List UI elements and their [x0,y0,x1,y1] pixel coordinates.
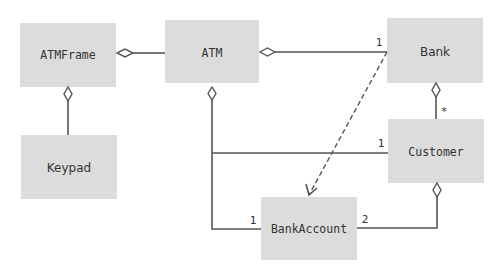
edge-atmframe-atm [117,49,165,57]
multiplicity-customer-bankaccount: 2 [362,213,369,226]
class-bankaccount: BankAccount [261,197,357,260]
multiplicity-bank-customer: * [441,105,448,118]
class-keypad: Keypad [21,135,117,199]
edge-customer-bankaccount-line [357,197,437,228]
edge-atmframe-keypad [64,87,72,135]
class-atm-label: ATM [202,46,223,60]
aggregation-diamond-icon [64,87,72,101]
class-customer: Customer [388,119,484,183]
class-atmframe-label: ATMFrame [40,48,95,62]
edge-atm-bank: 1 [260,36,387,56]
edge-atm-bankaccount-line [212,100,261,229]
aggregation-diamond-icon [117,49,133,57]
class-bank-label: Bank [420,45,450,59]
class-atm: ATM [165,20,259,83]
edge-bank-customer: * [432,83,447,119]
class-customer-label: Customer [408,145,463,159]
class-keypad-label: Keypad [47,161,91,175]
aggregation-diamond-icon [433,183,441,197]
class-atmframe: ATMFrame [20,23,116,87]
edge-customer-bankaccount: 2 [357,183,441,228]
edge-bank-bankaccount-dependency [306,52,387,195]
class-bankaccount-label: BankAccount [271,222,347,236]
multiplicity-atm-bank: 1 [376,36,383,49]
dependency-dashed-line [309,52,387,195]
class-bank: Bank [387,18,483,83]
aggregation-diamond-icon [260,48,275,56]
uml-class-diagram: ATMFrame ATM Bank Keypad Customer BankAc… [0,0,502,271]
multiplicity-atm-customer: 1 [378,137,385,150]
multiplicity-atm-bankaccount: 1 [250,214,257,227]
aggregation-diamond-icon [432,83,440,97]
aggregation-diamond-icon [208,87,216,100]
